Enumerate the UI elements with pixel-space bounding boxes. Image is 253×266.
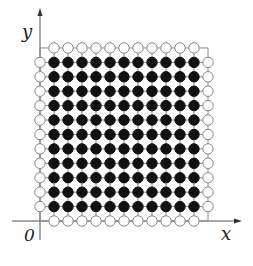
filled-point: [91, 187, 101, 197]
filled-point: [119, 72, 129, 82]
filled-point: [147, 57, 157, 67]
filled-point: [189, 201, 199, 211]
filled-point: [91, 115, 101, 125]
filled-point: [105, 86, 115, 96]
open-point: [35, 158, 45, 168]
filled-point: [49, 187, 59, 197]
open-point: [203, 100, 213, 110]
filled-point: [189, 100, 199, 110]
filled-point: [77, 57, 87, 67]
open-point: [105, 43, 115, 53]
filled-point: [49, 100, 59, 110]
filled-point: [175, 173, 185, 183]
filled-point: [63, 57, 73, 67]
filled-point: [63, 187, 73, 197]
filled-point: [133, 72, 143, 82]
open-point: [35, 144, 45, 154]
filled-point: [49, 144, 59, 154]
filled-point: [147, 115, 157, 125]
open-point: [119, 216, 129, 226]
filled-point: [91, 158, 101, 168]
open-point: [35, 129, 45, 139]
filled-point: [133, 187, 143, 197]
open-point: [35, 173, 45, 183]
filled-point: [91, 201, 101, 211]
open-point: [147, 43, 157, 53]
filled-point: [161, 173, 171, 183]
filled-point: [147, 201, 157, 211]
filled-point: [91, 72, 101, 82]
filled-point: [77, 158, 87, 168]
filled-point: [105, 173, 115, 183]
filled-point: [119, 100, 129, 110]
filled-point: [189, 57, 199, 67]
open-point: [133, 216, 143, 226]
filled-point: [105, 72, 115, 82]
filled-point: [77, 86, 87, 96]
filled-point: [161, 144, 171, 154]
open-point: [203, 115, 213, 125]
filled-point: [105, 144, 115, 154]
filled-point: [189, 72, 199, 82]
open-point: [77, 216, 87, 226]
filled-point: [63, 72, 73, 82]
open-point: [35, 201, 45, 211]
filled-point: [105, 100, 115, 110]
filled-point: [161, 100, 171, 110]
open-point: [35, 115, 45, 125]
open-point: [203, 144, 213, 154]
y-axis-label: y: [21, 21, 33, 42]
filled-point: [49, 129, 59, 139]
filled-point: [189, 129, 199, 139]
filled-point: [133, 144, 143, 154]
filled-point: [63, 158, 73, 168]
filled-point: [49, 173, 59, 183]
filled-point: [161, 187, 171, 197]
filled-point: [147, 100, 157, 110]
filled-point: [119, 115, 129, 125]
filled-point: [63, 201, 73, 211]
y-axis-arrow-icon: [38, 8, 43, 16]
filled-point: [147, 158, 157, 168]
open-point: [49, 43, 59, 53]
filled-point: [147, 187, 157, 197]
filled-point: [147, 173, 157, 183]
open-point: [35, 72, 45, 82]
open-point: [189, 216, 199, 226]
filled-point: [189, 115, 199, 125]
filled-point: [147, 129, 157, 139]
filled-point: [175, 158, 185, 168]
open-point: [203, 129, 213, 139]
filled-point: [133, 115, 143, 125]
filled-point: [119, 158, 129, 168]
open-point: [203, 158, 213, 168]
filled-point: [147, 144, 157, 154]
filled-point: [77, 173, 87, 183]
filled-point: [49, 115, 59, 125]
open-point: [35, 86, 45, 96]
open-point: [161, 216, 171, 226]
filled-point: [119, 173, 129, 183]
origin-label: 0: [24, 225, 35, 245]
filled-point: [175, 201, 185, 211]
filled-point: [91, 57, 101, 67]
open-point: [77, 43, 87, 53]
filled-point: [105, 57, 115, 67]
filled-point: [161, 57, 171, 67]
open-point: [35, 187, 45, 197]
filled-point: [63, 129, 73, 139]
filled-point: [63, 86, 73, 96]
open-point: [189, 43, 199, 53]
open-point: [161, 43, 171, 53]
filled-point: [189, 173, 199, 183]
filled-point: [175, 129, 185, 139]
filled-point: [77, 144, 87, 154]
filled-point: [133, 173, 143, 183]
open-point: [203, 57, 213, 67]
open-point: [35, 100, 45, 110]
filled-point: [175, 72, 185, 82]
filled-point: [49, 201, 59, 211]
open-point: [203, 187, 213, 197]
filled-point: [161, 72, 171, 82]
filled-point: [133, 158, 143, 168]
